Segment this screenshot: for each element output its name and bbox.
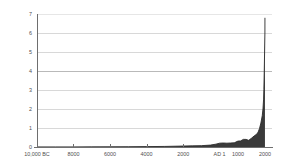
x-tick-label-1: 8000	[67, 151, 79, 158]
y-tick-label-5: 5	[18, 49, 32, 55]
x-tick-mark-2	[110, 144, 111, 148]
x-tick-mark-4	[183, 144, 184, 148]
x-tick-mark-3	[147, 144, 148, 148]
x-tick-label-3: 4000	[141, 151, 153, 158]
x-tick-label-6: 1000	[232, 151, 244, 158]
population-area-curve	[37, 14, 272, 147]
x-tick-label-4: 2000	[177, 151, 189, 158]
y-tick-label-0: 0	[18, 144, 32, 150]
y-tick-label-6: 6	[18, 30, 32, 36]
x-tick-label-0: 10,000 BC	[24, 151, 49, 158]
y-tick-label-7: 7	[18, 11, 32, 17]
x-axis-line	[37, 147, 273, 148]
y-tick-label-4: 4	[18, 68, 32, 74]
y-tick-label-3: 3	[18, 87, 32, 93]
x-tick-mark-1	[73, 144, 74, 148]
plot-area	[37, 14, 272, 147]
y-tick-label-1: 1	[18, 125, 32, 131]
x-tick-label-7: 2000	[259, 151, 271, 158]
world-population-chart: World population, billions 01234567 10,0…	[0, 0, 292, 167]
y-tick-label-2: 2	[18, 106, 32, 112]
x-tick-label-5: AD 1	[214, 151, 226, 158]
x-tick-label-2: 6000	[104, 151, 116, 158]
y-axis-line	[37, 14, 38, 148]
